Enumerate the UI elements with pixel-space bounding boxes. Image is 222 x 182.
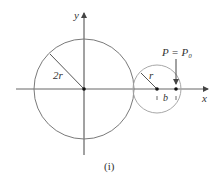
point-p-label: P = P₀ [161,46,192,58]
cycloid-diagram: y x 2r r P = P₀ b (i) [0,0,222,182]
offset-label: b [163,92,168,103]
big-radius-label: 2r [53,69,64,81]
figure-caption: (i) [104,160,115,173]
small-radius-label: r [149,69,154,81]
point-p [174,87,178,91]
small-center-point [155,87,159,91]
origin-point [82,87,86,91]
x-axis-label: x [201,92,207,104]
y-axis-label: y [73,9,79,21]
